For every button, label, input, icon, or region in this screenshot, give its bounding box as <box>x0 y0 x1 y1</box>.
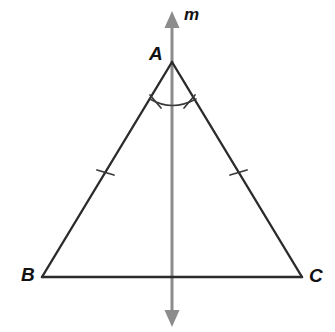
vertex-label-a: A <box>149 44 163 63</box>
line-label-m: m <box>184 6 199 23</box>
symmetry-line-arrowhead-bottom <box>165 310 180 327</box>
vertex-label-c: C <box>309 266 323 285</box>
vertex-label-b: B <box>21 265 35 284</box>
angle-arc-tick-left <box>150 95 161 108</box>
geometry-canvas <box>0 0 335 332</box>
symmetry-line-m <box>165 11 180 327</box>
symmetry-line-arrowhead-top <box>165 11 180 28</box>
triangle-side-ac <box>172 62 302 277</box>
geometry-figure: A B C m <box>0 0 335 332</box>
triangle-side-ab <box>42 62 172 277</box>
angle-arc-tick-right <box>184 95 195 108</box>
